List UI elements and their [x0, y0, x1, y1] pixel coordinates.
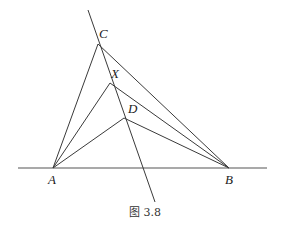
label-D: D	[127, 101, 138, 116]
geometry-figure: C X D A B 图 3.8	[0, 0, 281, 233]
label-A: A	[47, 172, 56, 187]
figure-caption: 图 3.8	[129, 206, 161, 219]
segment-AX	[53, 83, 110, 168]
segment-BD	[124, 118, 229, 168]
segment-CB	[98, 44, 229, 168]
segment-AD	[53, 118, 124, 168]
label-X: X	[110, 66, 120, 81]
segment-AC	[53, 44, 98, 168]
label-C: C	[99, 26, 108, 41]
label-B: B	[225, 172, 233, 187]
